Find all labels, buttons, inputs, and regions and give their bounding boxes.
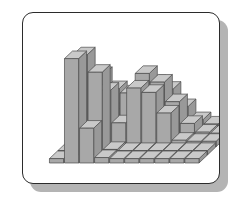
bar-face	[127, 88, 141, 147]
bar-face	[140, 159, 154, 163]
bar-face	[170, 159, 184, 163]
bar-face	[110, 159, 124, 163]
chart-canvas	[23, 13, 219, 183]
bar-face	[185, 159, 199, 163]
bar-face	[157, 113, 171, 147]
bar-face	[155, 159, 169, 163]
bar-face	[102, 65, 110, 155]
bar-face	[80, 128, 94, 163]
bar-face	[64, 59, 78, 163]
bar-face	[125, 159, 139, 163]
chart-card	[22, 12, 220, 184]
screenshot-root	[0, 0, 241, 209]
bar-face	[95, 158, 109, 163]
bar-chart-3d	[23, 13, 219, 183]
bar-face	[49, 159, 63, 163]
bar-face	[142, 92, 156, 146]
